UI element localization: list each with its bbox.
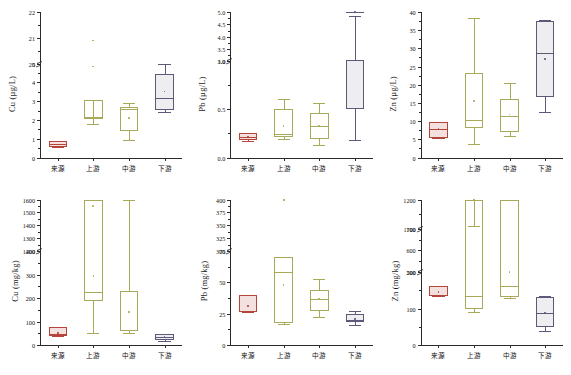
y-axis-tick-label: 15 <box>409 99 415 106</box>
whisker-lower <box>129 131 130 139</box>
y-axis-tick <box>37 200 40 201</box>
x-axis-tick <box>319 345 320 348</box>
y-axis-minor-tick <box>38 51 40 52</box>
axis-break-marker <box>225 247 235 256</box>
whisker-cap-upper <box>468 18 480 19</box>
whisker-lower <box>355 109 356 140</box>
y-axis-minor-tick <box>228 85 230 86</box>
whisker-cap-upper <box>158 64 170 65</box>
y-axis-tick <box>418 345 421 346</box>
whisker-cap-lower <box>313 145 325 146</box>
plot-area-cu-water: Cu (µg/L)012345202122来源上游中游下游 <box>0 0 190 188</box>
box-2 <box>84 200 103 301</box>
y-axis-tick <box>37 212 40 213</box>
y-axis-tick-label: 4.0 <box>218 33 226 40</box>
x-axis-line <box>421 158 563 159</box>
y-axis-tick-label: 0 <box>32 342 35 349</box>
box-1 <box>239 295 258 312</box>
y-axis-tick <box>418 121 421 122</box>
y-axis-minor-tick <box>38 263 40 264</box>
whisker-cap-lower <box>504 136 516 137</box>
x-axis-tick <box>438 158 439 161</box>
x-axis-tick <box>165 158 166 161</box>
y-axis-tick-label: 375 <box>216 209 225 216</box>
y-axis-tick <box>227 24 230 25</box>
axis-break-marker <box>35 247 45 256</box>
x-axis-line <box>421 345 563 346</box>
y-axis-tick-label: 1200 <box>23 248 35 255</box>
y-axis-tick-label: 500 <box>406 269 415 276</box>
mean-marker <box>354 318 356 320</box>
x-axis-tick <box>510 158 511 161</box>
x-axis-tick <box>510 345 511 348</box>
y-axis-minor-tick <box>38 232 40 233</box>
x-axis-tick <box>248 345 249 348</box>
whisker-cap-upper <box>313 279 325 280</box>
outlier-point <box>92 66 94 68</box>
y-axis-tick-label: 3 <box>32 98 35 105</box>
x-axis-tick-label-1: 来源 <box>51 350 65 360</box>
plot-area-pb-water: Pb (µg/L)0.00.51.03.03.54.04.55.0来源上游中游下… <box>190 0 380 188</box>
mean-marker <box>93 275 95 277</box>
y-axis-tick <box>418 48 421 49</box>
y-axis-tick <box>227 225 230 226</box>
y-axis-tick-label: 40 <box>409 9 415 16</box>
x-axis-tick-label-4: 下游 <box>348 350 362 360</box>
x-axis-tick-label-2: 上游 <box>277 350 291 360</box>
box-4 <box>155 74 174 110</box>
median-line <box>120 330 139 331</box>
whisker-lower <box>474 128 475 143</box>
y-axis-tick-label: 1200 <box>403 196 415 203</box>
y-axis-minor-tick <box>228 43 230 44</box>
y-axis-tick <box>418 85 421 86</box>
x-axis-tick-label-1: 来源 <box>51 163 65 173</box>
median-line <box>239 137 258 138</box>
y-axis-tick <box>37 38 40 39</box>
whisker-cap-lower <box>432 296 444 297</box>
median-line <box>536 53 555 54</box>
y-axis-minor-tick <box>419 290 421 291</box>
y-axis-tick <box>37 345 40 346</box>
y-axis-tick-label: 30 <box>409 45 415 52</box>
y-axis-tick-label: 600 <box>406 247 415 254</box>
y-axis-tick <box>37 12 40 13</box>
x-axis-tick-label-3: 中游 <box>312 163 326 173</box>
y-axis-tick-label: 5 <box>413 136 416 143</box>
median-line <box>429 295 448 296</box>
y-axis-minor-tick <box>228 329 230 330</box>
y-axis-tick-label: 1300 <box>23 235 35 242</box>
median-line <box>274 272 293 273</box>
panel-cu-water: Cu (µg/L)012345202122来源上游中游下游 <box>0 0 190 188</box>
median-line <box>239 311 258 312</box>
whisker-upper <box>284 99 285 109</box>
y-axis-title: Zn (mg/kg) <box>390 261 400 302</box>
x-axis-tick <box>474 158 475 161</box>
y-axis-tick <box>227 12 230 13</box>
y-axis-tick-label: 200 <box>26 295 35 302</box>
x-axis-tick <box>165 345 166 348</box>
x-axis-tick <box>438 345 439 348</box>
y-axis-tick-label: 0.0 <box>218 154 226 161</box>
y-axis-tick-label: 1 <box>32 135 35 142</box>
x-axis-tick-label-1: 来源 <box>431 350 445 360</box>
x-axis-tick-label-1: 来源 <box>431 163 445 173</box>
y-axis-minor-tick <box>419 94 421 95</box>
x-axis-tick-label-3: 中游 <box>503 350 517 360</box>
x-axis-tick-label-2: 上游 <box>277 163 291 173</box>
x-axis-tick <box>129 158 130 161</box>
y-axis-minor-tick <box>419 112 421 113</box>
whisker-cap-upper <box>123 200 135 201</box>
box-2 <box>465 200 484 309</box>
y-axis-tick-label: 50 <box>219 279 225 286</box>
median-line <box>346 320 365 321</box>
whisker-cap-lower <box>278 139 290 140</box>
median-line <box>465 120 484 121</box>
whisker-cap-lower <box>52 147 64 148</box>
panel-pb-sediment: Pb (mg/kg)0255075300325350375400来源上游中游下游 <box>190 188 380 375</box>
y-axis-tick <box>227 212 230 213</box>
whisker-cap-lower <box>158 341 170 342</box>
whisker-cap-lower <box>432 138 444 139</box>
y-axis-minor-tick <box>419 76 421 77</box>
y-axis-tick-label: 22 <box>29 9 35 16</box>
x-axis-tick <box>129 345 130 348</box>
